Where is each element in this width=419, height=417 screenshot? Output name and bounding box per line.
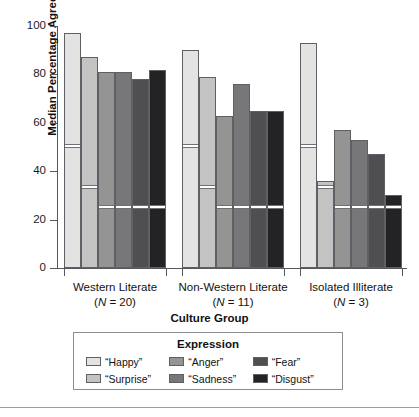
bar — [216, 116, 233, 268]
bar — [182, 50, 199, 268]
legend-swatch — [169, 357, 184, 366]
bar — [98, 72, 115, 268]
bar — [81, 57, 98, 268]
chance-level-line — [133, 205, 148, 209]
legend-entry: “Happy” — [86, 353, 169, 370]
legend-label: “Fear” — [272, 356, 301, 368]
legend-title: Expression — [74, 338, 342, 350]
chart-page: Median Percentage Agreement 020406080100… — [0, 0, 419, 417]
legend-swatch — [86, 374, 101, 383]
y-axis-tick — [50, 26, 58, 27]
y-axis-tick — [50, 220, 58, 221]
bar — [149, 70, 166, 268]
chance-level-line — [150, 205, 165, 209]
legend-entry: “Anger” — [169, 353, 252, 370]
y-axis-tick — [50, 74, 58, 75]
legend-label: “Surprise” — [105, 373, 151, 385]
x-axis-tick — [166, 269, 167, 276]
x-axis-title: Culture Group — [0, 312, 419, 324]
bar — [368, 154, 385, 268]
x-axis-tick — [182, 269, 183, 276]
chance-level-line — [386, 205, 401, 209]
bar — [199, 77, 216, 268]
chance-level-line — [183, 144, 198, 148]
group-sample-size: (N = 3) — [282, 295, 419, 310]
bar — [385, 195, 402, 268]
group-label-text: Non-Western Literate — [178, 281, 287, 293]
chance-level-line — [99, 205, 114, 209]
chance-level-line — [318, 185, 333, 189]
group-label: Isolated Illiterate(N = 3) — [282, 280, 419, 310]
bar — [334, 130, 351, 268]
legend-entry: “Sadness” — [169, 370, 252, 387]
chance-level-line — [301, 144, 316, 148]
bar — [300, 43, 317, 268]
x-axis-line — [57, 268, 407, 269]
bar — [250, 111, 267, 268]
chance-level-line — [217, 205, 232, 209]
plot-area — [58, 26, 406, 268]
chance-level-line — [116, 205, 131, 209]
y-axis-tick — [50, 123, 58, 124]
x-axis-tick — [284, 269, 285, 276]
legend-label: “Happy” — [105, 356, 142, 368]
y-axis-tick — [50, 268, 58, 269]
x-axis-tick — [64, 269, 65, 276]
legend-swatch — [253, 357, 268, 366]
legend-entry: “Disgust” — [253, 370, 336, 387]
chance-level-line — [82, 185, 97, 189]
legend-label: “Anger” — [188, 356, 223, 368]
bar — [233, 84, 250, 268]
legend-label: “Disgust” — [272, 373, 314, 385]
chance-level-line — [65, 144, 80, 148]
chance-level-line — [251, 205, 266, 209]
legend-label: “Sadness” — [188, 373, 236, 385]
legend-swatch — [86, 357, 101, 366]
chance-level-line — [335, 205, 350, 209]
chance-level-line — [369, 205, 384, 209]
y-axis-tick-label: 60 — [6, 122, 46, 123]
chance-level-line — [268, 205, 283, 209]
bar — [64, 33, 81, 268]
group-label-text: Isolated Illiterate — [309, 281, 393, 293]
legend-entry: “Surprise” — [86, 370, 169, 387]
group-label-text: Western Literate — [73, 281, 157, 293]
bar — [115, 72, 132, 268]
chance-level-line — [352, 205, 367, 209]
y-axis-tick-label: 100 — [6, 25, 46, 26]
chance-level-line — [234, 205, 249, 209]
x-axis-tick — [300, 269, 301, 276]
legend-entries: “Happy”“Anger”“Fear”“Surprise”“Sadness”“… — [86, 353, 336, 387]
bar — [132, 79, 149, 268]
bar — [351, 140, 368, 268]
y-axis-tick — [50, 171, 58, 172]
legend-swatch — [253, 374, 268, 383]
y-axis-tick-label: 0 — [6, 267, 46, 268]
chance-level-line — [200, 185, 215, 189]
bar — [317, 181, 334, 268]
y-axis-tick-label: 40 — [6, 170, 46, 171]
bar — [267, 111, 284, 268]
y-axis-tick-label: 20 — [6, 219, 46, 220]
x-axis-tick — [402, 269, 403, 276]
y-axis-title: Median Percentage Agreement — [46, 0, 58, 140]
legend-box: Expression “Happy”“Anger”“Fear”“Surprise… — [73, 332, 343, 390]
legend-swatch — [169, 374, 184, 383]
footer-divider — [0, 407, 419, 408]
y-axis-tick-label: 80 — [6, 73, 46, 74]
legend-entry: “Fear” — [253, 353, 336, 370]
